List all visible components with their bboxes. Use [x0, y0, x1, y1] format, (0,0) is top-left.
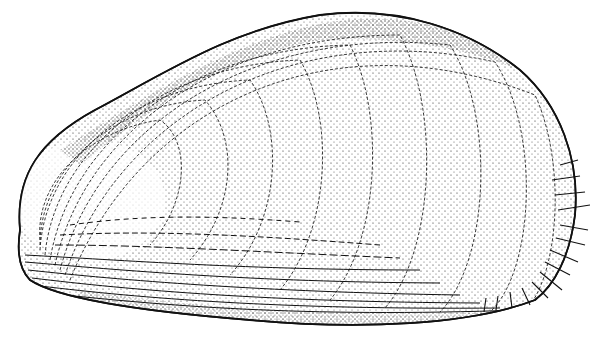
illustration-canvas	[0, 0, 594, 343]
mussel-shell-drawing	[0, 0, 594, 343]
